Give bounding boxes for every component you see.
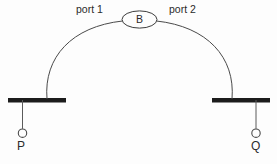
port1-connection-arc — [47, 21, 123, 99]
station-q-label: Q — [251, 140, 260, 153]
station-p-label: P — [17, 140, 25, 153]
diagram-canvas: port 1 port 2 B P Q — [0, 0, 277, 164]
port2-connection-arc — [157, 21, 233, 99]
bridge-node-label: B — [136, 13, 143, 25]
station-q-node — [252, 129, 260, 137]
station-p-node — [18, 129, 26, 137]
port2-label: port 2 — [169, 3, 196, 15]
port1-label: port 1 — [76, 3, 103, 15]
